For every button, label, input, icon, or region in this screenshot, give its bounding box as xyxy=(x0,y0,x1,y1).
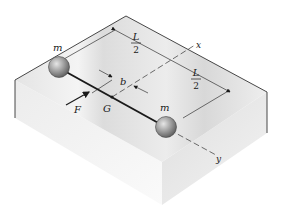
label-half-length-top-denominator: 2 xyxy=(133,45,139,55)
label-half-length-bottom-denominator: 2 xyxy=(193,81,199,91)
center-of-mass-point xyxy=(110,95,113,98)
label-half-length-bottom-numerator: L xyxy=(192,67,200,78)
label-offset-b: b xyxy=(120,76,126,87)
label-center-of-mass-G: G xyxy=(103,103,111,114)
label-mass-left: m xyxy=(53,42,62,53)
label-half-length-top-numerator: L xyxy=(132,31,140,42)
mass-left-sphere xyxy=(49,57,70,78)
label-mass-right: m xyxy=(160,102,169,113)
dumbbell-diagram: m m L 2 L 2 b F G x y xyxy=(0,0,284,218)
label-force-F: F xyxy=(73,104,82,115)
mass-right-sphere xyxy=(156,117,177,138)
label-axis-x: x xyxy=(196,40,201,50)
label-axis-y: y xyxy=(215,154,222,164)
